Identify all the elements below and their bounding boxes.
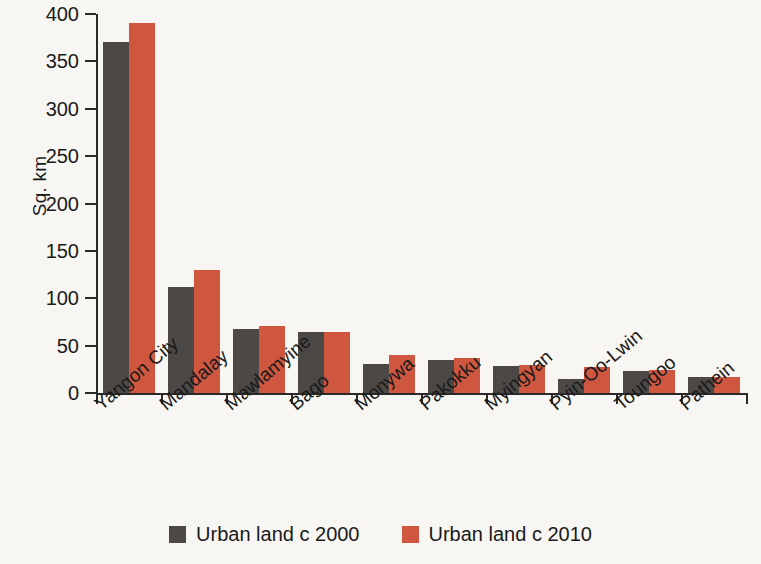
bar xyxy=(129,23,155,393)
y-axis-tick: 250 xyxy=(85,155,96,157)
y-axis-tick-label: 400 xyxy=(46,4,79,24)
x-axis-tick xyxy=(746,393,748,404)
y-axis-tick: 100 xyxy=(85,297,96,299)
bar-group xyxy=(688,14,740,393)
y-axis-tick-label: 350 xyxy=(46,51,79,71)
bar-group xyxy=(428,14,480,393)
bar-chart: Sq. km 050100150200250300350400 Yangon C… xyxy=(0,0,761,564)
bar-group xyxy=(168,14,220,393)
y-axis-tick-label: 100 xyxy=(46,288,79,308)
y-axis-tick-label: 300 xyxy=(46,99,79,119)
y-axis-tick-label: 200 xyxy=(46,194,79,214)
y-axis-tick: 350 xyxy=(85,60,96,62)
y-axis-tick-label: 150 xyxy=(46,241,79,261)
bar-group xyxy=(493,14,545,393)
y-axis-tick-label: 50 xyxy=(57,336,79,356)
y-axis-line xyxy=(96,14,98,393)
bar-group xyxy=(558,14,610,393)
y-axis-tick: 150 xyxy=(85,250,96,252)
legend-item: Urban land c 2010 xyxy=(402,524,592,544)
plot-area: 050100150200250300350400 xyxy=(96,14,746,393)
legend-label: Urban land c 2010 xyxy=(429,524,592,544)
y-axis-tick: 200 xyxy=(85,203,96,205)
y-axis-tick: 50 xyxy=(85,345,96,347)
legend-swatch xyxy=(402,526,419,543)
bar-group xyxy=(363,14,415,393)
chart-legend: Urban land c 2000Urban land c 2010 xyxy=(0,524,761,544)
bar-group xyxy=(233,14,285,393)
legend-item: Urban land c 2000 xyxy=(169,524,359,544)
y-axis-tick: 300 xyxy=(85,108,96,110)
y-axis-tick-label: 250 xyxy=(46,146,79,166)
legend-label: Urban land c 2000 xyxy=(196,524,359,544)
bar-group xyxy=(103,14,155,393)
bar xyxy=(103,42,129,393)
y-axis-title: Sq. km xyxy=(29,126,51,246)
legend-swatch xyxy=(169,526,186,543)
y-axis-tick-label: 0 xyxy=(68,383,79,403)
y-axis-tick: 400 xyxy=(85,13,96,15)
